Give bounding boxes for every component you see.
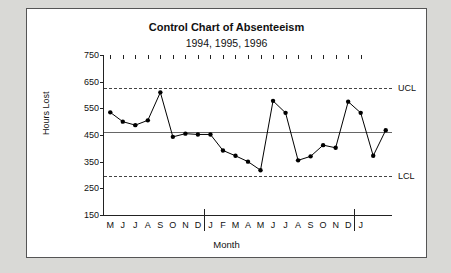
x-axis-tick-label: S <box>157 220 163 230</box>
chart-subtitle: 1994, 1995, 1996 <box>27 37 426 49</box>
y-axis-tick-label: 750 <box>84 50 99 60</box>
y-axis-tick-label: 550 <box>84 103 99 113</box>
y-axis-tick-label: 650 <box>84 77 99 87</box>
x-axis-tick-label: J <box>358 220 363 230</box>
chart-title: Control Chart of Absenteeism <box>27 21 426 33</box>
x-axis-tick-label: J <box>121 220 126 230</box>
x-axis-tick-label: J <box>133 220 138 230</box>
x-axis-tick-label: A <box>295 220 301 230</box>
x-axis-tick-label: O <box>169 220 176 230</box>
y-axis-tick-label: 350 <box>84 157 99 167</box>
control-limit-label: LCL <box>398 171 415 181</box>
x-axis-tick-label: D <box>195 220 202 230</box>
y-axis-tick-label: 450 <box>84 130 99 140</box>
x-axis-tick-label: F <box>220 220 226 230</box>
x-axis-tick-label: M <box>107 220 115 230</box>
y-axis-tick-mark <box>100 215 104 216</box>
x-axis-tick-label: A <box>145 220 151 230</box>
data-series <box>104 55 392 215</box>
x-axis-tick-label: S <box>308 220 314 230</box>
x-axis-tick-label: N <box>332 220 339 230</box>
x-axis-tick-label: N <box>182 220 189 230</box>
x-axis-tick-label: M <box>232 220 240 230</box>
x-axis-label: Month <box>27 239 426 250</box>
control-limit-label: UCL <box>398 83 416 93</box>
x-axis-tick-label: M <box>257 220 265 230</box>
y-axis-tick-label: 250 <box>84 183 99 193</box>
x-axis-tick-label: J <box>283 220 288 230</box>
x-axis-tick-label: O <box>320 220 327 230</box>
plot-area: 150250350450550650750MJJASONDJFMAMJJASON… <box>103 55 392 216</box>
y-axis-tick-label: 150 <box>84 210 99 220</box>
x-axis-tick-label: D <box>345 220 352 230</box>
chart-frame: Control Chart of Absenteeism 1994, 1995,… <box>26 8 427 258</box>
x-axis-tick-label: J <box>271 220 276 230</box>
x-axis-tick-label: J <box>208 220 213 230</box>
x-axis-tick-label: A <box>245 220 251 230</box>
y-axis-label: Hours Lost <box>41 91 51 135</box>
